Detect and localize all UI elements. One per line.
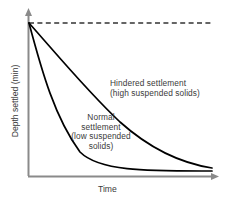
normal-settlement-label: Normal settlement (low suspended solids) [58, 113, 144, 151]
hindered-settlement-label: Hindered settlement (high suspended soli… [110, 79, 200, 98]
x-axis-arrow [211, 173, 219, 180]
chart-canvas [0, 0, 236, 206]
settling-curve-figure: Hindered settlement (high suspended soli… [0, 0, 236, 206]
y-axis-arrow [25, 8, 32, 16]
y-axis-label: Depth settled (min) [10, 53, 20, 149]
x-axis-label: Time [98, 184, 117, 194]
